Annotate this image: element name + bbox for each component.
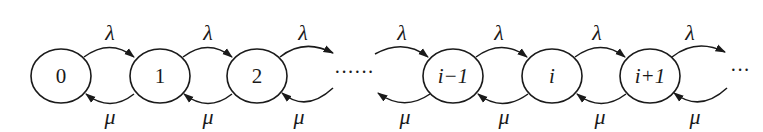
birth-death-chain-diagram: 0 1 2 i−1 i i+1 λ λ λ λ λ λ λ μ μ μ μ μ … [0, 0, 763, 132]
mu-label: μ [593, 104, 605, 129]
lambda-label: λ [202, 20, 213, 45]
mu-label: μ [103, 104, 115, 129]
arrow-i-plus-1-to-i [577, 94, 626, 104]
lambda-label: λ [493, 20, 504, 45]
lambda-label: λ [396, 20, 407, 45]
arrow-prev-to-i-minus-1 [375, 47, 428, 57]
arrow-2-to-next [280, 46, 333, 57]
arrow-1-to-0 [86, 94, 134, 104]
state-label: 0 [56, 64, 67, 88]
arrow-next-to-i-plus-1 [674, 88, 727, 102]
lambda-label: λ [297, 20, 308, 45]
arrow-i-to-i-plus-1 [575, 48, 625, 58]
mu-label: μ [398, 104, 410, 129]
middle-ellipsis: ······ [334, 61, 374, 83]
mu-label: μ [201, 104, 213, 129]
state-2: 2 [227, 49, 287, 103]
arrow-1-to-2 [183, 48, 232, 58]
arrow-next-to-2 [282, 88, 333, 102]
arrow-0-to-1 [84, 48, 134, 58]
mu-labels: μ μ μ μ μ μ μ [103, 104, 700, 129]
lambda-label: λ [591, 20, 602, 45]
lambda-label: λ [684, 20, 695, 45]
arrow-i-plus-1-to-next [672, 46, 725, 57]
mu-label: μ [497, 104, 509, 129]
mu-label: μ [688, 104, 700, 129]
state-label: i−1 [438, 64, 469, 88]
state-label: 1 [155, 64, 166, 88]
arrow-i-minus-1-to-i [476, 48, 527, 58]
mu-label: μ [292, 104, 304, 129]
state-label: i [549, 64, 555, 88]
state-label: i+1 [635, 64, 666, 88]
state-i-minus-1: i−1 [423, 49, 483, 103]
state-0: 0 [31, 49, 91, 103]
state-label: 2 [252, 64, 263, 88]
state-i-plus-1: i+1 [620, 49, 680, 103]
state-1: 1 [130, 49, 190, 103]
lambda-label: λ [104, 20, 115, 45]
state-i: i [522, 49, 582, 103]
end-ellipsis: ··· [730, 59, 750, 81]
arrow-i-minus-1-to-prev [378, 93, 430, 103]
arrow-2-to-1 [184, 94, 232, 104]
lambda-labels: λ λ λ λ λ λ λ [104, 20, 695, 45]
arrow-i-to-i-minus-1 [478, 94, 528, 104]
